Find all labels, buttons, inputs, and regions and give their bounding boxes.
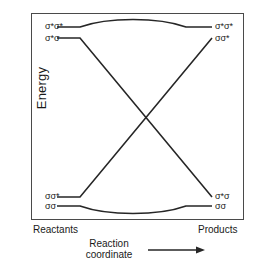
x-axis-caption: Reaction coordinate bbox=[78, 238, 140, 260]
right-arrow-icon bbox=[148, 246, 205, 253]
label-reactant-sigma-star-sigma: σ*σ bbox=[45, 33, 60, 43]
label-product-sigma-sigma-star: σσ* bbox=[215, 33, 230, 43]
x-axis-end-label: Products bbox=[198, 224, 237, 235]
y-axis-label: Energy bbox=[34, 48, 54, 128]
x-axis-caption-line2: coordinate bbox=[78, 249, 140, 260]
orbital-correlation-figure: Energy σ*σ* σ*σ σ*σ* σσ* σσ* σσ σ*σ σσ R… bbox=[0, 0, 263, 271]
plot-frame bbox=[31, 13, 244, 220]
label-reactant-sigma-star-sigma-star: σ*σ* bbox=[45, 21, 63, 31]
label-product-sigma-sigma: σσ bbox=[215, 201, 226, 211]
x-axis-start-label: Reactants bbox=[33, 224, 78, 235]
label-reactant-sigma-sigma: σσ bbox=[45, 201, 56, 211]
label-reactant-sigma-sigma-star: σσ* bbox=[45, 191, 60, 201]
label-product-sigma-star-sigma: σ*σ bbox=[215, 191, 230, 201]
x-axis-caption-line1: Reaction bbox=[78, 238, 140, 249]
label-product-sigma-star-sigma-star: σ*σ* bbox=[215, 21, 233, 31]
